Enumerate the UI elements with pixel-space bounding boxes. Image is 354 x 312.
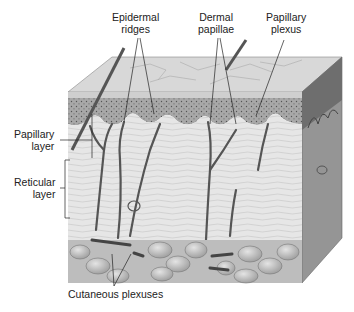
- label-line: plexus: [266, 23, 306, 35]
- label-line: Papillary: [266, 11, 306, 23]
- epidermis: [68, 92, 302, 125]
- label-reticular-layer: Reticular layer: [14, 176, 55, 200]
- skin-block-illustration: [0, 0, 354, 312]
- label-papillary-layer: Papillary layer: [14, 128, 54, 152]
- label-line: layer: [14, 140, 54, 152]
- label-line: papillae: [198, 23, 234, 35]
- subcutaneous-fat: [68, 240, 302, 283]
- right-face: [302, 57, 342, 283]
- label-cutaneous-plexuses: Cutaneous plexuses: [68, 288, 163, 300]
- skin-diagram: Epidermal ridges Dermal papillae Papilla…: [0, 0, 354, 312]
- label-line: layer: [14, 188, 55, 200]
- label-dermal-papillae: Dermal papillae: [198, 11, 234, 35]
- label-epidermal-ridges: Epidermal ridges: [112, 11, 159, 35]
- label-line: ridges: [112, 23, 159, 35]
- label-papillary-plexus: Papillary plexus: [266, 11, 306, 35]
- label-line: Reticular: [14, 176, 55, 188]
- label-line: Epidermal: [112, 11, 159, 23]
- label-line: Cutaneous plexuses: [68, 288, 163, 300]
- label-line: Dermal: [198, 11, 234, 23]
- label-line: Papillary: [14, 128, 54, 140]
